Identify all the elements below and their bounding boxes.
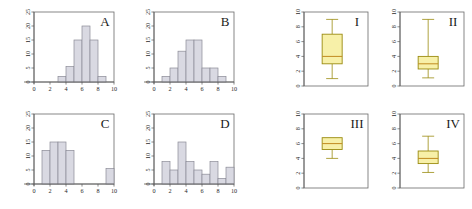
panel-label: II — [449, 14, 458, 29]
y-tick-label: 5 — [144, 168, 151, 171]
y-tick-label: 4 — [294, 55, 301, 58]
x-tick-label: 0 — [32, 85, 35, 92]
panel-label: A — [100, 14, 110, 29]
y-tick-label: 5 — [24, 168, 31, 171]
x-tick-label: 2 — [168, 187, 171, 194]
boxplot-panel-ii: 0246810II — [378, 4, 470, 102]
y-tick-label: 25 — [24, 111, 31, 117]
y-tick-label: 6 — [294, 142, 301, 145]
y-tick-label: 15 — [144, 37, 151, 43]
y-tick-label: 0 — [24, 80, 31, 83]
x-tick-label: 6 — [80, 187, 83, 194]
histogram-bar — [210, 162, 218, 184]
x-tick-label: 8 — [216, 187, 219, 194]
boxplot-group — [322, 19, 342, 78]
box-iii-svg: 0246810III — [282, 106, 374, 204]
histogram-bar — [42, 150, 50, 184]
x-tick-label: 2 — [48, 85, 51, 92]
statistics-figure: 02468100510152025A 02468100510152025B 02… — [0, 0, 472, 209]
y-tick-label: 0 — [390, 84, 397, 87]
hist-a-svg: 02468100510152025A — [8, 4, 120, 102]
box-iqr — [322, 34, 342, 64]
x-tick-label: 8 — [96, 85, 99, 92]
y-tick-label: 5 — [144, 66, 151, 69]
y-tick-label: 6 — [294, 40, 301, 43]
y-tick-label: 0 — [390, 186, 397, 189]
boxplot-group — [418, 136, 438, 172]
x-tick-label: 0 — [152, 187, 155, 194]
histogram-bar — [226, 167, 234, 184]
y-tick-label: 4 — [390, 157, 397, 160]
y-tick-label: 2 — [390, 70, 397, 73]
y-tick-label: 8 — [390, 25, 397, 28]
y-tick-label: 20 — [144, 125, 151, 131]
x-tick-label: 4 — [184, 187, 187, 194]
histogram-bar — [162, 162, 170, 184]
histogram-panel-a: 02468100510152025A — [8, 4, 120, 102]
y-tick-label: 2 — [294, 70, 301, 73]
histogram-bar — [106, 169, 114, 184]
x-tick-label: 10 — [111, 85, 117, 92]
y-tick-label: 15 — [24, 139, 31, 145]
panel-label: III — [351, 116, 364, 131]
x-tick-label: 2 — [168, 85, 171, 92]
x-tick-label: 2 — [48, 187, 51, 194]
histogram-bar — [218, 76, 226, 82]
y-tick-label: 8 — [294, 127, 301, 130]
histogram-bar — [186, 162, 194, 184]
y-tick-label: 0 — [24, 182, 31, 185]
x-tick-label: 0 — [152, 85, 155, 92]
histogram-bar — [50, 142, 58, 184]
y-tick-label: 0 — [294, 84, 301, 87]
y-tick-label: 6 — [390, 40, 397, 43]
y-tick-label: 10 — [390, 111, 397, 117]
y-tick-label: 0 — [144, 182, 151, 185]
bars-group — [58, 26, 106, 82]
histogram-bar — [66, 150, 74, 184]
boxplot-group — [322, 138, 342, 159]
histogram-bar — [194, 40, 202, 82]
y-tick-label: 10 — [144, 153, 151, 159]
histogram-bar — [58, 142, 66, 184]
hist-d-svg: 02468100510152025D — [128, 106, 240, 204]
boxplot-panel-iv: 0246810IV — [378, 106, 470, 204]
y-tick-label: 10 — [294, 9, 301, 15]
bars-group — [42, 142, 114, 184]
y-tick-label: 15 — [144, 139, 151, 145]
y-tick-label: 2 — [390, 172, 397, 175]
x-tick-label: 4 — [64, 187, 67, 194]
y-tick-label: 6 — [390, 142, 397, 145]
histogram-bar — [66, 67, 74, 82]
histogram-panel-b: 02468100510152025B — [128, 4, 240, 102]
histogram-bar — [178, 142, 186, 184]
histogram-panel-c: 02468100510152025C — [8, 106, 120, 204]
histogram-bar — [194, 170, 202, 184]
boxplot-group — [418, 19, 438, 77]
y-tick-label: 0 — [144, 80, 151, 83]
histogram-bar — [186, 40, 194, 82]
y-tick-label: 25 — [24, 9, 31, 15]
x-tick-label: 10 — [231, 187, 237, 194]
x-tick-label: 6 — [80, 85, 83, 92]
y-tick-label: 10 — [390, 9, 397, 15]
y-tick-label: 20 — [24, 125, 31, 131]
histogram-bar — [90, 40, 98, 82]
y-tick-label: 10 — [24, 51, 31, 57]
panel-label: I — [355, 14, 359, 29]
histogram-bar — [162, 76, 170, 82]
y-tick-label: 25 — [144, 111, 151, 117]
x-tick-label: 10 — [111, 187, 117, 194]
y-tick-label: 10 — [24, 153, 31, 159]
y-tick-label: 25 — [144, 9, 151, 15]
y-tick-label: 4 — [390, 55, 397, 58]
box-iqr — [418, 151, 438, 164]
box-i-svg: 0246810I — [282, 4, 374, 102]
panel-label: C — [101, 116, 110, 131]
box-iqr — [418, 56, 438, 69]
y-tick-label: 4 — [294, 157, 301, 160]
y-tick-label: 20 — [24, 23, 31, 29]
boxplot-panel-i: 0246810I — [282, 4, 374, 102]
x-tick-label: 0 — [32, 187, 35, 194]
histogram-bar — [58, 76, 66, 82]
histogram-bar — [202, 68, 210, 82]
